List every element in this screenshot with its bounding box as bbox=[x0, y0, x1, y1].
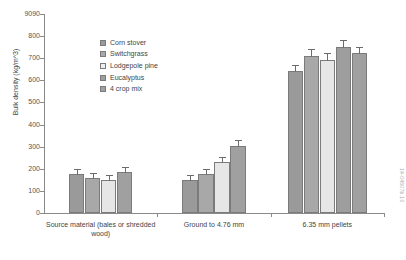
bar bbox=[320, 60, 336, 213]
legend-label: Eucalyptus bbox=[110, 74, 144, 82]
y-tick-label: 200 bbox=[0, 165, 40, 172]
error-bar bbox=[93, 174, 94, 179]
legend-label: 4 crop mix bbox=[110, 85, 142, 93]
bar-group bbox=[288, 14, 368, 213]
legend-item: Lodgepole pine bbox=[100, 60, 158, 72]
error-bar bbox=[109, 176, 110, 181]
error-bar bbox=[327, 54, 328, 61]
legend-swatch-icon bbox=[100, 63, 106, 69]
legend-label: Switchgrass bbox=[110, 50, 148, 58]
watermark-text: 14-04507b.10 bbox=[399, 168, 405, 202]
x-category-label: Ground to 4.76 mm bbox=[157, 220, 270, 229]
legend-item: Eucalyptus bbox=[100, 72, 158, 84]
error-bar-cap bbox=[308, 49, 315, 50]
y-tick-mark bbox=[40, 80, 44, 81]
error-bar-cap bbox=[122, 167, 129, 168]
bar bbox=[101, 180, 117, 213]
error-bar-cap bbox=[356, 47, 363, 48]
bar bbox=[214, 162, 230, 213]
error-bar bbox=[295, 66, 296, 72]
error-bar bbox=[311, 50, 312, 57]
x-tick-mark bbox=[157, 213, 158, 217]
y-tick-mark bbox=[40, 169, 44, 170]
bar bbox=[288, 71, 304, 213]
error-bar-cap bbox=[187, 175, 194, 176]
y-tick-label: 800 bbox=[0, 32, 40, 39]
error-bar bbox=[206, 170, 207, 175]
y-tick-label: 400 bbox=[0, 121, 40, 128]
bar bbox=[182, 180, 198, 213]
error-bar bbox=[190, 176, 191, 181]
error-bar-cap bbox=[235, 140, 242, 141]
y-tick-mark bbox=[40, 36, 44, 37]
y-tick-label: 700 bbox=[0, 54, 40, 61]
error-bar-cap bbox=[203, 169, 210, 170]
x-axis-line bbox=[44, 213, 384, 214]
bar bbox=[69, 174, 85, 213]
error-bar-cap bbox=[340, 40, 347, 41]
legend-item: Corn stover bbox=[100, 37, 158, 49]
y-tick-label: 600 bbox=[0, 76, 40, 83]
error-bar-cap bbox=[219, 157, 226, 158]
x-tick-mark bbox=[271, 213, 272, 217]
bar bbox=[304, 56, 320, 213]
error-bar-cap bbox=[324, 53, 331, 54]
y-tick-label: 100 bbox=[0, 187, 40, 194]
x-tick-mark bbox=[384, 213, 385, 217]
y-tick-mark bbox=[40, 125, 44, 126]
legend-swatch-icon bbox=[100, 75, 106, 81]
y-tick-mark bbox=[40, 14, 44, 15]
x-category-label: Source material (bales or shredded wood) bbox=[44, 220, 157, 238]
error-bar bbox=[238, 141, 239, 147]
x-category-label: 6.35 mm pellets bbox=[271, 220, 384, 229]
y-tick-mark bbox=[40, 102, 44, 103]
y-tick-mark bbox=[40, 147, 44, 148]
bar bbox=[336, 47, 352, 213]
legend-swatch-icon bbox=[100, 86, 106, 92]
legend-item: 4 crop mix bbox=[100, 83, 158, 95]
bar bbox=[230, 146, 246, 213]
bar bbox=[85, 178, 101, 213]
chart-legend: Corn stoverSwitchgrassLodgepole pineEuca… bbox=[100, 37, 158, 95]
error-bar bbox=[359, 48, 360, 55]
error-bar bbox=[125, 168, 126, 173]
bar bbox=[352, 53, 368, 213]
y-tick-label: 300 bbox=[0, 143, 40, 150]
plot-area bbox=[44, 14, 384, 213]
bar bbox=[198, 174, 214, 213]
error-bar bbox=[343, 41, 344, 48]
legend-label: Corn stover bbox=[110, 39, 146, 47]
y-tick-label: 500 bbox=[0, 98, 40, 105]
y-tick-mark bbox=[40, 58, 44, 59]
error-bar-cap bbox=[292, 65, 299, 66]
error-bar-cap bbox=[74, 169, 81, 170]
chart-figure: 01002003004005006007008009090 Bulk densi… bbox=[0, 0, 406, 260]
y-tick-label: 0 bbox=[0, 209, 40, 216]
y-tick-mark bbox=[40, 213, 44, 214]
legend-item: Switchgrass bbox=[100, 49, 158, 61]
legend-label: Lodgepole pine bbox=[110, 62, 158, 70]
error-bar bbox=[222, 158, 223, 163]
y-axis-labels: 01002003004005006007008009090 bbox=[0, 0, 40, 214]
legend-swatch-icon bbox=[100, 51, 106, 57]
bar-group bbox=[182, 14, 246, 213]
error-bar bbox=[77, 170, 78, 175]
legend-swatch-icon bbox=[100, 40, 106, 46]
error-bar-cap bbox=[90, 173, 97, 174]
y-tick-label: 9090 bbox=[0, 10, 40, 17]
bar bbox=[117, 172, 133, 213]
y-tick-mark bbox=[40, 191, 44, 192]
error-bar-cap bbox=[106, 175, 113, 176]
y-axis-title: Bulk density (kg/m^3) bbox=[12, 22, 20, 142]
